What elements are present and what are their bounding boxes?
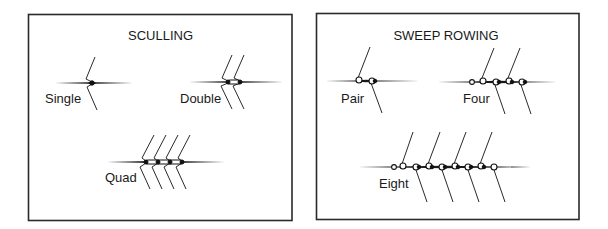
rower-seat-icon: [238, 80, 242, 84]
sweep-rowing-panel: SWEEP ROWING Pair Four: [317, 14, 580, 220]
rower-seat-icon: [491, 164, 497, 170]
oar-icon: [416, 170, 427, 202]
rower-seat-icon: [156, 160, 160, 164]
pair-label: Pair: [341, 91, 365, 106]
sweep-title: SWEEP ROWING: [393, 28, 498, 43]
oar-icon: [87, 84, 97, 110]
oar-icon: [178, 135, 190, 161]
rower-seat-icon: [356, 77, 362, 83]
oar-icon: [221, 83, 232, 109]
oar-icon: [428, 132, 440, 164]
oar-icon: [234, 55, 244, 81]
double-scull-boat: Double: [180, 55, 284, 109]
oar-icon: [86, 57, 95, 82]
rower-seat-icon: [482, 165, 486, 169]
oar-icon: [140, 163, 150, 189]
rower-seat-icon: [146, 160, 182, 164]
rower-seat-icon: [400, 163, 406, 169]
rower-seat-icon: [417, 165, 421, 169]
rower-seat-icon: [180, 160, 184, 164]
oar-icon: [233, 83, 244, 109]
rower-seat-icon: [497, 80, 501, 84]
rower-seat-icon: [226, 80, 230, 84]
oar-icon: [152, 163, 162, 189]
oar-icon: [521, 85, 531, 114]
pair-boat: Pair: [325, 47, 420, 113]
quad-label: Quad: [105, 170, 137, 185]
sculling-title: SCULLING: [128, 28, 193, 43]
oar-icon: [494, 170, 505, 202]
rower-seat-icon: [480, 78, 486, 84]
eight-boat: Eight: [358, 132, 531, 202]
oar-icon: [166, 135, 178, 161]
oar-icon: [164, 163, 174, 189]
rower-seat-icon: [168, 160, 172, 164]
oar-icon: [482, 48, 494, 78]
oar-icon: [176, 163, 186, 189]
coxswain-seat-icon: [392, 165, 397, 170]
four-boat: Four: [437, 48, 557, 114]
rower-seat-icon: [510, 80, 514, 84]
rower-seat-icon: [456, 165, 460, 169]
oar-icon: [142, 135, 154, 161]
coxswain-seat-icon: [470, 80, 475, 85]
oar-icon: [442, 170, 453, 202]
rowing-boat-types-diagram: SCULLING Single Double: [0, 0, 608, 229]
oar-icon: [371, 83, 382, 113]
eight-label: Eight: [379, 176, 409, 191]
rower-seat-icon: [443, 165, 447, 169]
oar-icon: [402, 132, 413, 164]
rower-seat-icon: [144, 160, 148, 164]
oar-icon: [358, 47, 370, 78]
rower-seat-icon: [430, 165, 434, 169]
sweep-panel-frame: [317, 14, 580, 220]
quad-scull-boat: Quad: [105, 135, 225, 189]
single-scull-boat: Single: [45, 57, 133, 110]
oar-icon: [508, 48, 520, 78]
rower-seat-icon: [90, 81, 94, 85]
double-label: Double: [180, 91, 221, 106]
oar-icon: [468, 170, 479, 202]
sculling-panel: SCULLING Single Double: [29, 15, 293, 221]
rower-seat-icon: [523, 80, 527, 84]
oar-icon: [454, 132, 466, 164]
four-label: Four: [463, 91, 490, 106]
single-label: Single: [45, 91, 81, 106]
rower-seat-icon: [373, 79, 377, 83]
oar-icon: [222, 55, 232, 81]
oar-icon: [480, 132, 492, 164]
oar-icon: [154, 135, 166, 161]
sculling-panel-frame: [29, 15, 293, 221]
oar-icon: [495, 85, 505, 114]
rower-seat-icon: [469, 165, 473, 169]
